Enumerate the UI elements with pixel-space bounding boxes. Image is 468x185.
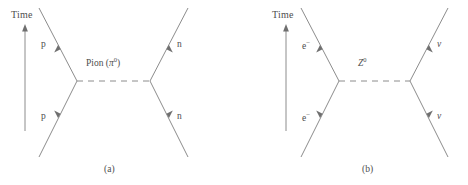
diagram-b-canvas: [234, 0, 468, 185]
time-axis-arrowhead-a: [22, 24, 28, 32]
leg-outgoing-upper-a: [150, 8, 188, 81]
time-axis-label-a: Time: [11, 10, 33, 20]
caption-b: (b): [362, 165, 373, 175]
propagator-label-prefix-a: Pion (: [86, 58, 109, 68]
propagator-label-b: Z0: [358, 57, 367, 69]
leg-outgoing-lower-b: [410, 81, 448, 157]
leg-arrow-outgoing-lower-b: [426, 111, 432, 119]
leg-arrow-outgoing-lower-a: [166, 111, 172, 119]
label-incoming-lower-sup-b: −: [306, 111, 310, 119]
leg-outgoing-upper-b: [410, 8, 448, 81]
leg-arrow-incoming-lower-b: [316, 111, 322, 119]
figure-root: Time p p n n Pion (π0) (a): [0, 0, 468, 185]
leg-arrow-outgoing-upper-b: [426, 45, 432, 53]
diagram-a-canvas: [0, 0, 234, 185]
feynman-diagram-b: Time e− e− ν ν Z0 (b): [234, 0, 468, 185]
time-axis-arrowhead-b: [283, 24, 289, 32]
time-axis-label-b: Time: [272, 10, 294, 20]
leg-outgoing-lower-a: [150, 81, 188, 157]
label-incoming-upper-sup-b: −: [306, 39, 310, 47]
label-incoming-upper-b: e−: [302, 40, 310, 52]
propagator-label-suffix-a: ): [117, 58, 120, 68]
label-outgoing-upper-a: n: [177, 40, 182, 50]
leg-arrow-incoming-upper-a: [54, 45, 60, 53]
propagator-label-superscript-b: 0: [363, 56, 366, 63]
feynman-diagram-a: Time p p n n Pion (π0) (a): [0, 0, 234, 185]
label-outgoing-upper-b: ν: [437, 40, 441, 50]
propagator-label-a: Pion (π0): [86, 57, 120, 69]
label-incoming-lower-a: p: [41, 112, 46, 122]
label-outgoing-lower-b: ν: [437, 112, 441, 122]
caption-a: (a): [104, 165, 115, 175]
leg-arrow-incoming-lower-a: [54, 111, 60, 119]
label-incoming-lower-b: e−: [302, 112, 310, 124]
label-incoming-upper-a: p: [41, 40, 46, 50]
label-outgoing-lower-a: n: [177, 112, 182, 122]
leg-arrow-outgoing-upper-a: [166, 45, 172, 53]
leg-arrow-incoming-upper-b: [316, 45, 322, 53]
